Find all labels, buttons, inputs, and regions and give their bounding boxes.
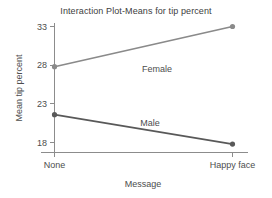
series-line-female <box>55 27 233 67</box>
y-axis-title: Mean tip percent <box>14 54 24 122</box>
series-label-female: Female <box>142 64 172 74</box>
y-tick-label-28: 28 <box>37 60 47 70</box>
data-point-female-happy-face <box>230 24 235 29</box>
y-tick-label-18: 18 <box>37 138 47 148</box>
x-axis-title: Message <box>125 179 162 189</box>
series-label-male: Male <box>140 118 160 128</box>
x-tick-label-none: None <box>44 160 66 170</box>
interaction-plot: Interaction Plot-Means for tip percent 3… <box>0 0 272 198</box>
data-point-female-none <box>52 64 57 69</box>
data-point-male-none <box>52 112 57 117</box>
x-tick-label-happy-face: Happy face <box>210 160 256 170</box>
plot-area: 33 28 23 18 Mean tip percent None Happy … <box>0 0 272 198</box>
data-point-male-happy-face <box>230 141 235 146</box>
y-tick-label-23: 23 <box>37 99 47 109</box>
y-tick-label-33: 33 <box>37 22 47 32</box>
